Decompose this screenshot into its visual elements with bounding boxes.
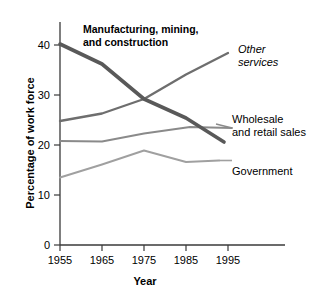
series-line-government [60, 151, 219, 178]
series-label-manufacturing: Manufacturing, mining, and construction [83, 23, 199, 49]
x-tick-label-1965: 1965 [85, 254, 119, 266]
x-tick-label-1955: 1955 [43, 254, 77, 266]
x-axis-title: Year [110, 275, 180, 287]
x-tick-label-1995: 1995 [211, 254, 245, 266]
y-tick-label-40: 40 [28, 39, 50, 51]
series-label-other-services-line2: services [238, 56, 278, 69]
x-tick-marks [60, 245, 228, 251]
series-label-wholesale: Wholesale and retail sales [232, 113, 306, 139]
series-label-other-services: Other services [238, 43, 278, 69]
y-axis-title: Percentage of work force [24, 63, 36, 223]
y-tick-marks [54, 45, 60, 245]
series-label-wholesale-line2: and retail sales [232, 126, 306, 139]
y-tick-label-0: 0 [28, 239, 50, 251]
series-label-government: Government [232, 165, 293, 178]
series-line-manufacturing [60, 44, 224, 142]
x-tick-label-1975: 1975 [127, 254, 161, 266]
series-label-manufacturing-line1: Manufacturing, mining, [83, 23, 199, 36]
series-label-manufacturing-line2: and construction [83, 36, 199, 49]
line-chart: 40 30 20 10 0 1955 1965 1975 1985 1995 P… [0, 0, 319, 300]
series-label-other-services-line1: Other [238, 43, 278, 56]
series-line-other-services [60, 53, 228, 121]
series-label-wholesale-line1: Wholesale [232, 113, 306, 126]
x-tick-label-1985: 1985 [169, 254, 203, 266]
